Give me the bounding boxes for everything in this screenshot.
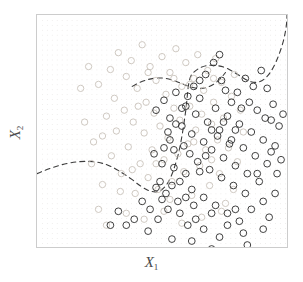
x-axis-label-text: X xyxy=(145,254,154,270)
y-axis-label-sub: 2 xyxy=(15,126,25,131)
x-axis-label: X1 xyxy=(0,254,303,271)
scatter-points xyxy=(37,15,287,247)
y-axis-label: X2 xyxy=(7,108,24,158)
x-axis-label-sub: 1 xyxy=(154,262,159,272)
plot-frame xyxy=(36,14,288,248)
figure-container: X2 X1 xyxy=(0,0,303,282)
y-axis-label-text: X xyxy=(7,130,23,139)
